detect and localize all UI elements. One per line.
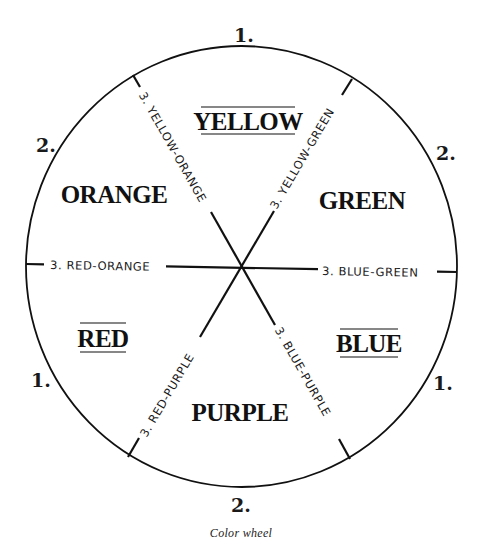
rank-marker-upper-right: 2. xyxy=(436,142,456,164)
segment-yellow: YELLOW xyxy=(193,107,303,135)
segment-label-orange: ORANGE xyxy=(61,181,168,208)
spoke-label-red-orange: 3. RED-ORANGE xyxy=(50,258,150,274)
rank-marker-top: 1. xyxy=(234,24,254,46)
spoke-label-blue-green: 3. BLUE-GREEN xyxy=(322,264,419,280)
figure-caption: Color wheel xyxy=(210,526,273,540)
rank-marker-upper-left: 2. xyxy=(36,134,56,156)
rank-marker-lower-left: 1. xyxy=(31,369,51,391)
spoke-label-red-purple: 3. RED-PURPLE xyxy=(137,351,197,440)
color-wheel-diagram: 3. YELLOW-ORANGE 3. YELLOW-GREEN 3. RED-… xyxy=(0,0,480,558)
segment-red: RED xyxy=(77,323,128,352)
segment-label-yellow: YELLOW xyxy=(193,108,303,135)
segment-blue: BLUE xyxy=(336,329,402,357)
rank-marker-bottom: 2. xyxy=(231,494,251,516)
segment-label-green: GREEN xyxy=(319,187,406,214)
segment-label-purple: PURPLE xyxy=(192,399,289,426)
rank-marker-lower-right: 1. xyxy=(433,372,453,394)
segment-label-red: RED xyxy=(77,325,128,352)
segment-label-blue: BLUE xyxy=(336,330,402,357)
